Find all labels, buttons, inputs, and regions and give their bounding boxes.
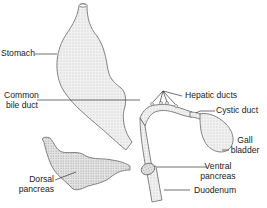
- common-bile-duct-label-line2: bile duct: [4, 101, 38, 111]
- gall-bladder-label: Gall bladder: [225, 136, 265, 155]
- ventral-pancreas-label: Ventral pancreas: [196, 162, 240, 181]
- gall-bladder-label-line2: bladder: [225, 146, 265, 156]
- esophagus-opening: [79, 4, 87, 7]
- hepatic-ducts-label: Hepatic ducts: [185, 91, 237, 101]
- dorsal-pancreas-shape: [42, 137, 130, 190]
- digestive-anatomy-diagram: Stomach Hepatic ducts Cystic duct Common…: [0, 0, 267, 208]
- common-bile-duct-shape: [140, 118, 152, 170]
- stomach-label: Stomach: [1, 49, 35, 59]
- stomach-shape: [57, 4, 132, 150]
- cystic-duct-label: Cystic duct: [216, 106, 258, 116]
- hepatic-ducts-shape: [140, 104, 192, 126]
- dorsal-pancreas-label-line2: pancreas: [4, 185, 54, 195]
- common-bile-duct-label: Common bile duct: [4, 91, 38, 110]
- duodenum-label: Duodenum: [194, 186, 236, 196]
- dorsal-pancreas-label: Dorsal pancreas: [4, 175, 54, 194]
- ventral-pancreas-label-line2: pancreas: [196, 172, 240, 182]
